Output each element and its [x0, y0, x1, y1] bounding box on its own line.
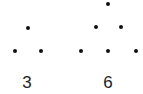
figure-label-3: 3 [22, 74, 31, 91]
dot [106, 2, 110, 6]
dot [106, 49, 110, 53]
dot [119, 25, 123, 29]
dot [13, 49, 17, 53]
dot [94, 25, 98, 29]
dot [134, 49, 138, 53]
figure-label-6: 6 [103, 74, 112, 91]
dot [26, 26, 30, 30]
dot [79, 49, 83, 53]
dot [39, 49, 43, 53]
